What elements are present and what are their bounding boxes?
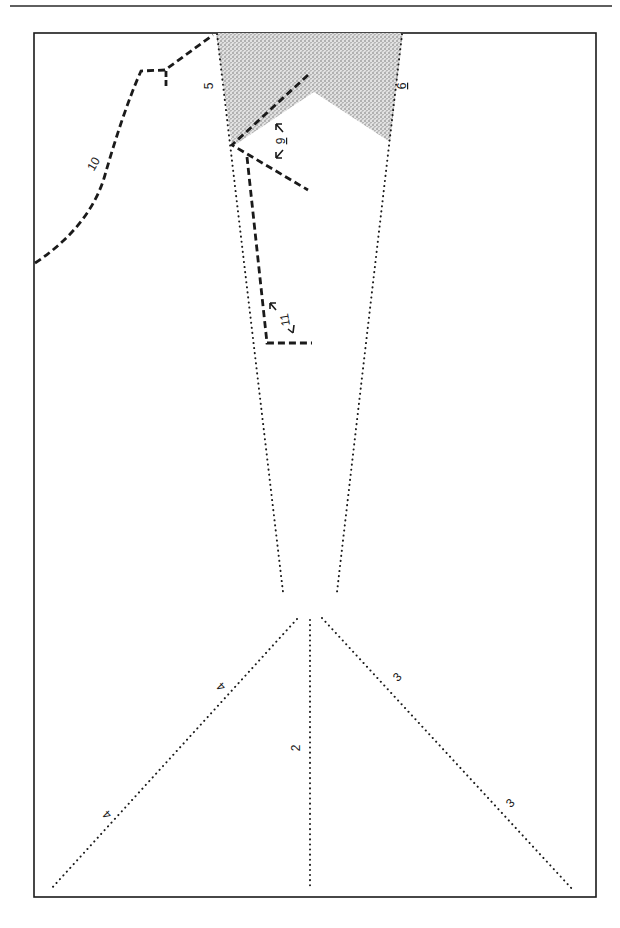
label-6: 6 <box>395 82 409 89</box>
label-9: 9 <box>274 137 288 144</box>
label-4-upper: 4 <box>214 679 229 694</box>
line-10 <box>35 35 213 263</box>
line-3 <box>322 618 573 890</box>
pattern-frame <box>34 33 596 897</box>
label-4-lower: 4 <box>100 807 115 822</box>
label-5: 5 <box>202 82 216 89</box>
label-2: 2 <box>289 744 303 751</box>
label-10: 10 <box>84 154 103 173</box>
label-11: 11 <box>277 312 293 327</box>
pattern-diagram: 5 6 9 10 11 4 4 2 3 3 <box>0 0 620 928</box>
label-3-lower: 3 <box>503 796 518 811</box>
shaded-dart-area <box>216 33 403 147</box>
label-3-upper: 3 <box>390 670 405 685</box>
line-4 <box>51 619 297 889</box>
